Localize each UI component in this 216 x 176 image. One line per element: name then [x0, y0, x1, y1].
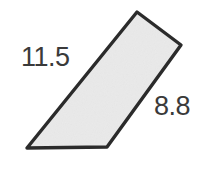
parallelogram-texture [27, 12, 181, 148]
side-length-label-short: 8.8 [154, 93, 190, 120]
geometry-figure: 11.5 8.8 [0, 0, 216, 176]
side-length-label-long: 11.5 [21, 44, 70, 71]
figure-canvas [0, 0, 216, 176]
